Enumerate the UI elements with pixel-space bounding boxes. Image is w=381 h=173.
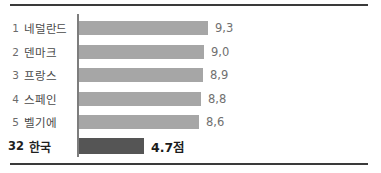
bar-row: 2덴마크9,0 xyxy=(0,40,381,64)
bar-row-label: 3프랑스 xyxy=(8,63,72,87)
bar-row-label: 5벨기에 xyxy=(8,110,72,134)
bar-row-label: 2덴마크 xyxy=(8,40,72,64)
bar-chart-plot: 1네덜란드9,32덴마크9,03프랑스8,94스페인8,85벨기에8,632한국… xyxy=(0,12,381,162)
bar-value-label: 9,3 xyxy=(215,16,233,40)
bar-rank: 2 xyxy=(8,46,19,58)
bar-rank: 4 xyxy=(8,93,19,105)
bar-category-name: 프랑스 xyxy=(24,67,56,83)
bar-row: 4스페인8,8 xyxy=(0,87,381,111)
bar-row: 1네덜란드9,3 xyxy=(0,16,381,40)
bar-rank: 32 xyxy=(8,139,24,153)
bar xyxy=(79,68,203,82)
bar-rank: 5 xyxy=(8,116,19,128)
bar-rank: 3 xyxy=(8,69,19,81)
bar-category-name: 한국 xyxy=(29,138,51,155)
bar-row-label: 4스페인 xyxy=(8,87,72,111)
bar-rank: 1 xyxy=(8,22,19,34)
bottom-rule xyxy=(10,163,368,165)
bar-category-name: 덴마크 xyxy=(24,44,56,60)
bar-row-label: 32한국 xyxy=(8,134,72,158)
bar xyxy=(79,138,144,154)
bar-category-name: 벨기에 xyxy=(24,114,56,130)
bar-row: 5벨기에8,6 xyxy=(0,110,381,134)
bar-value-label: 8,6 xyxy=(206,110,224,134)
bar-value-label: 8,9 xyxy=(210,63,228,87)
bar-row: 32한국4.7점 xyxy=(0,134,381,158)
bar-value-label: 9,0 xyxy=(211,40,229,64)
bar-row-label: 1네덜란드 xyxy=(8,16,72,40)
bar xyxy=(79,115,199,129)
bar-value-label: 4.7점 xyxy=(151,134,185,158)
bar xyxy=(79,45,204,59)
bar xyxy=(79,21,208,35)
bar xyxy=(79,92,201,106)
chart-figure: 1네덜란드9,32덴마크9,03프랑스8,94스페인8,85벨기에8,632한국… xyxy=(0,0,381,173)
bar-value-label: 8,8 xyxy=(208,87,226,111)
bar-category-name: 스페인 xyxy=(24,91,56,107)
bar-category-name: 네덜란드 xyxy=(24,20,67,36)
top-rule xyxy=(10,4,368,6)
bar-row: 3프랑스8,9 xyxy=(0,63,381,87)
